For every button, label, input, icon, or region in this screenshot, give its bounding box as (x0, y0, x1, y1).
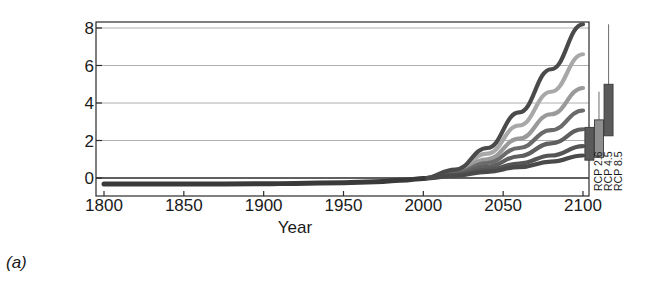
panel-label: (a) (6, 253, 27, 273)
rcp-scenario-labels: RCP 2.6RCP 4.5RCP 8.5 (0, 0, 656, 290)
figure-panel-a: Global mean sea level (feet) 02468 18001… (0, 0, 656, 290)
rcp-label-rcp85: RCP 8.5 (613, 152, 624, 192)
